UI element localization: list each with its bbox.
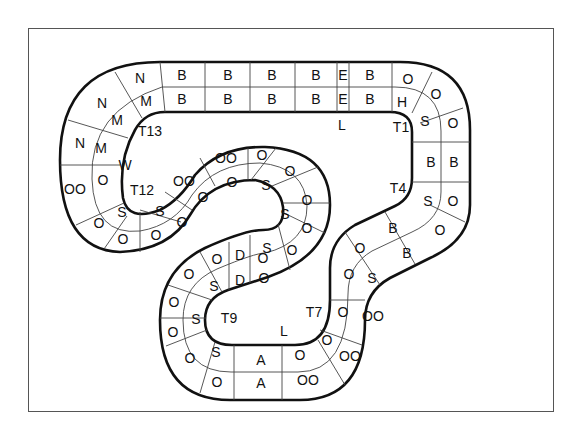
track-cell-letter: M	[95, 140, 107, 156]
track-cell-letter: O	[212, 374, 223, 390]
track-cell-letter: O	[257, 147, 268, 163]
corner-label-t12: T12	[130, 182, 154, 198]
track-cell-letter: S	[191, 311, 200, 327]
track-cell-letter: OO	[64, 181, 86, 197]
track-cell-letter: S	[155, 203, 164, 219]
track-cell-letter: D	[235, 272, 245, 288]
track-cell-letter: O	[212, 251, 223, 267]
track-cell-letter: O	[118, 231, 129, 247]
track-cell-letter: B	[311, 67, 320, 83]
track-cell-letter: E	[338, 67, 347, 83]
track-cell-letter: S	[117, 204, 126, 220]
track-cell-letter: O	[448, 115, 459, 131]
track-cell-letter: B	[365, 91, 374, 107]
track-cell-letter: S	[423, 193, 432, 209]
track-cell-letter: B	[223, 67, 232, 83]
track-cell-letter: O	[259, 270, 270, 286]
track-cell-letter: N	[97, 95, 107, 111]
track-cell-letter: H	[397, 94, 407, 110]
track-cell-letter: B	[402, 245, 411, 261]
track-cell-letter: M	[140, 93, 152, 109]
track-cell-letter: OO	[173, 173, 195, 189]
track-cell-letter: O	[435, 222, 446, 238]
corner-label-t4: T4	[390, 180, 407, 196]
corner-label-w: W	[118, 157, 132, 173]
track-cell-letter: A	[256, 375, 266, 391]
corner-label-t7: T7	[306, 304, 323, 320]
track-cell-letter: B	[267, 67, 276, 83]
track-cell-letter: O	[302, 192, 313, 208]
track-cell-letter: N	[75, 135, 85, 151]
track-cell-letter: OO	[362, 308, 384, 324]
track-cell-letter: OO	[215, 150, 237, 166]
track-cell-letter: O	[403, 71, 414, 87]
track-cell-letter: B	[365, 67, 374, 83]
track-cell-letter: O	[227, 174, 238, 190]
track-cell-letter: O	[169, 294, 180, 310]
track-cell-letter: O	[338, 304, 349, 320]
track-cell-letter: A	[256, 352, 266, 368]
track-cell-letter: O	[151, 227, 162, 243]
track-cell-letter: O	[98, 172, 109, 188]
track-cell-letter: S	[367, 270, 376, 286]
track-cell-letter: B	[426, 154, 435, 170]
track-cell-letter: S	[280, 206, 289, 222]
track-cell-letter: O	[94, 215, 105, 231]
track-cell-letter: O	[168, 324, 179, 340]
track-cell-letter: O	[285, 163, 296, 179]
track-cell-letter: S	[420, 113, 429, 129]
track-cell-letter: S	[211, 344, 220, 360]
track-cell-letter: B	[388, 220, 397, 236]
track-cell-letter: O	[198, 189, 209, 205]
track-cell-letter: O	[287, 242, 298, 258]
corner-label-t9: T9	[221, 310, 238, 326]
track-cell-letter: O	[295, 347, 306, 363]
track-cell-letter: E	[338, 91, 347, 107]
track-cell-letter: B	[267, 91, 276, 107]
track-cell-letter: O	[177, 214, 188, 230]
track-cell-letter: O	[302, 220, 313, 236]
track-cell-letter: B	[223, 91, 232, 107]
track-cell-letter: S	[209, 278, 218, 294]
track-cell-letter: M	[111, 112, 123, 128]
track-cell-letter: B	[177, 91, 186, 107]
track-cell-letter: D	[235, 247, 245, 263]
track-cell-letter: B	[311, 91, 320, 107]
track-cell-letter: S	[262, 240, 271, 256]
track-cell-letter: N	[135, 70, 145, 86]
track-cell-letter: O	[431, 86, 442, 102]
track-cell-letter: O	[184, 266, 195, 282]
track-cell-letter: O	[344, 266, 355, 282]
track-cell-letter: O	[185, 350, 196, 366]
track-cell-letter: S	[261, 177, 270, 193]
track-cell-letter: OO	[339, 348, 361, 364]
corner-label-t13: T13	[138, 123, 162, 139]
track-cell-letter: B	[177, 67, 186, 83]
corner-label-l2: L	[280, 323, 288, 339]
track-cell-letter: O	[322, 332, 333, 348]
corner-label-l1: L	[338, 117, 346, 133]
track-cell-letter: O	[448, 193, 459, 209]
track-cell-letter: O	[355, 240, 366, 256]
race-track-diagram: NBBBBEBOOOBOOBSOOOOOOOAOOOOOOOOOOOOOOOOO…	[0, 0, 584, 437]
corner-label-t1: T1	[393, 119, 410, 135]
track-cell-letter: OO	[297, 372, 319, 388]
track-cell-letter: B	[449, 154, 458, 170]
